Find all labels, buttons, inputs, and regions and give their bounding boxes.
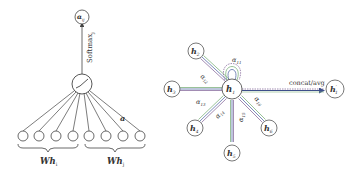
alpha-16-label: α16 [252, 95, 265, 108]
alpha-13-label: α13 [196, 98, 206, 107]
node-h4: h4 [187, 120, 203, 136]
input-nodes [18, 131, 145, 141]
input-connections [23, 91, 140, 131]
input-node [84, 131, 94, 141]
input-node [135, 131, 145, 141]
weight-a-label: a [120, 113, 125, 123]
node-h1-center: h1 [222, 79, 242, 99]
alpha-15-label: α15 [237, 112, 246, 122]
node-h2: h2 [188, 43, 204, 59]
svg-text:h′1: h′1 [330, 84, 338, 95]
input-node [51, 131, 61, 141]
concat-avg-label: concat/avg [289, 79, 325, 87]
edge-h1-h4 [199, 96, 227, 123]
multi-head-attention-panel: concat/avg α11 α12 α13 α14 α15 α16 h2 h3 [164, 43, 344, 161]
node-h6: h6 [261, 120, 277, 136]
node-h5: h5 [224, 145, 240, 161]
gat-diagram: Whi Whj a Softmaxj αij [0, 0, 361, 175]
aggregation-arrow [242, 89, 324, 92]
softmax-label: Softmaxj [86, 32, 95, 63]
alpha-12-label: α12 [198, 72, 211, 85]
input-node [101, 131, 111, 141]
brace-wh-i [18, 144, 78, 152]
brace-wh-j [85, 144, 145, 152]
edge-h1-h5 [231, 100, 234, 142]
alpha-11-label: α11 [232, 56, 241, 65]
attention-mechanism-panel: Whi Whj a Softmaxj αij [18, 10, 145, 168]
input-node [68, 131, 78, 141]
node-h3: h3 [164, 81, 180, 97]
edge-h1-h3 [179, 88, 222, 91]
wh-j-label: Whj [107, 156, 125, 168]
node-h1-prime-output: h′1 [326, 80, 344, 98]
edge-self-loop [223, 64, 240, 81]
input-node [34, 131, 44, 141]
wh-i-label: Whi [40, 156, 58, 167]
input-node [18, 131, 28, 141]
input-node [118, 131, 128, 141]
